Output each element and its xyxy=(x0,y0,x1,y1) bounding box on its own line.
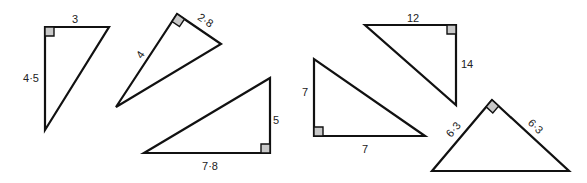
side-length-label: 7 xyxy=(302,86,308,98)
triangle-t1: 34·5 xyxy=(23,13,109,130)
right-angle-marker xyxy=(261,144,270,153)
triangle-t5: 1214 xyxy=(365,12,473,105)
right-angle-marker xyxy=(447,25,456,34)
triangle-outline xyxy=(365,25,456,105)
triangle-t4: 77 xyxy=(302,59,425,155)
triangle-outline xyxy=(45,27,109,130)
side-length-label: 12 xyxy=(407,12,419,24)
side-length-label: 7·8 xyxy=(202,160,218,172)
side-length-label: 4 xyxy=(133,48,146,60)
right-angle-marker xyxy=(45,27,54,36)
side-length-label: 7 xyxy=(362,143,368,155)
triangle-t6: 6·36·3 xyxy=(432,100,569,171)
right-angle-marker xyxy=(314,127,323,136)
triangle-t2: 42·8 xyxy=(116,11,221,107)
side-length-label: 3 xyxy=(72,13,78,25)
side-length-label: 2·8 xyxy=(196,11,216,30)
triangle-outline xyxy=(144,78,270,153)
side-length-label: 4·5 xyxy=(23,72,39,84)
triangle-outline xyxy=(116,14,221,107)
right-angle-marker xyxy=(172,14,184,27)
triangle-t3: 57·8 xyxy=(144,78,279,172)
right-triangles-diagram: 34·542·857·87712146·36·3 xyxy=(0,0,587,183)
right-angle-marker xyxy=(486,100,498,113)
side-length-label: 14 xyxy=(461,58,473,70)
side-length-label: 5 xyxy=(273,114,279,126)
triangle-outline xyxy=(314,59,425,136)
